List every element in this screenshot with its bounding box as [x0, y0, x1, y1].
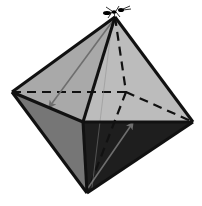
octahedron-figure [0, 0, 202, 206]
octahedron-diagram [0, 0, 202, 206]
ant-icon [103, 6, 131, 18]
